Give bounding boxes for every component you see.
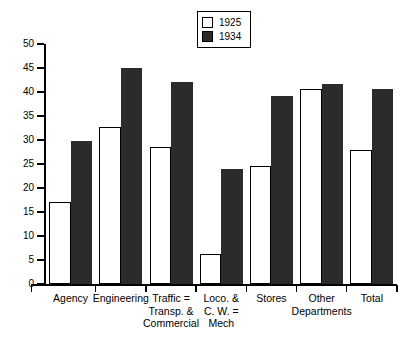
y-axis-tick-label-text: 30 [8,135,34,145]
y-axis-tick-label: 40 [5,87,34,97]
bar-1934-4 [271,96,293,284]
y-axis-tick [37,187,44,188]
x-axis-tick [95,285,96,292]
x-axis-tick [31,285,32,292]
y-axis-tick-label-text: 45 [8,63,34,73]
y-axis-tick [37,283,44,284]
x-axis-tick [396,285,397,292]
y-axis-tick [37,235,44,236]
legend-label-1934: 1934 [219,31,241,42]
bar-1925-3 [200,254,222,284]
bar-1925-2 [150,147,172,284]
legend-swatch-1925-icon [202,17,213,28]
y-axis-tick-label: 35 [5,111,34,121]
x-axis-category-label: Total [325,292,409,305]
bar-1934-6 [372,89,394,284]
x-axis-tick [195,285,196,292]
y-axis-tick-label: 30 [5,135,34,145]
bar-1934-5 [322,84,344,284]
y-axis-tick [37,211,44,212]
y-axis-tick-label-text: 5 [8,255,34,265]
x-axis-tick [145,285,146,292]
chart-legend: 1925 1934 [197,11,251,48]
bar-1925-4 [250,166,272,284]
bar-1934-3 [221,169,243,284]
legend-label-1925: 1925 [219,17,241,28]
y-axis-tick-label: 45 [5,63,34,73]
x-axis-tick [296,285,297,292]
y-axis-tick [37,43,44,44]
bar-1934-0 [71,141,93,284]
y-axis-tick-label-text: 15 [8,207,34,217]
x-axis-tick [346,285,347,292]
y-axis-tick [37,259,44,260]
y-axis-tick-label-text: 20 [8,183,34,193]
y-axis-tick-label: 25 [5,159,34,169]
bar-1925-5 [300,89,322,284]
y-axis-line [44,44,46,285]
legend-entry-1934: 1934 [202,29,246,43]
bar-1934-1 [121,68,143,284]
y-axis-tick-label-text: 35 [8,111,34,121]
legend-swatch-1934-icon [202,31,213,42]
y-axis-tick-label: 15 [5,207,34,217]
y-axis-tick [37,91,44,92]
y-axis-tick-label: 10 [5,231,34,241]
bar-1925-0 [49,202,71,284]
x-axis-tick [246,285,247,292]
x-axis-line [31,284,397,286]
y-axis-tick-label-text: 40 [8,87,34,97]
y-axis-tick [37,163,44,164]
bar-1934-2 [171,82,193,284]
y-axis-tick-label-text: 10 [8,231,34,241]
y-axis-tick-label: 0 [5,279,34,289]
y-axis-tick-label: 5 [5,255,34,265]
bar-1925-6 [350,150,372,284]
y-axis-tick [37,115,44,116]
y-axis-tick [37,67,44,68]
y-axis-tick-label-text: 50 [8,39,34,49]
y-axis-tick-label: 50 [5,39,34,49]
bar-chart: 1925 1934 05101520253035404550 AgencyEng… [0,0,409,349]
y-axis-tick-label: 20 [5,183,34,193]
y-axis-tick-label-text: 25 [8,159,34,169]
legend-entry-1925: 1925 [202,15,246,29]
bar-1925-1 [99,127,121,284]
y-axis-tick [37,139,44,140]
